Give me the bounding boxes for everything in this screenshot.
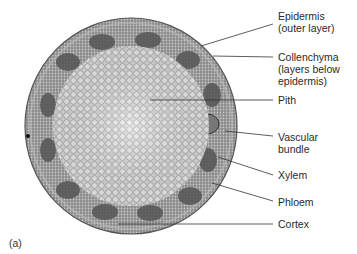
label-collenchyma-line2: (layers below [278, 63, 340, 75]
label-cortex-line1: Cortex [278, 218, 309, 230]
micrograph-illustration [0, 0, 357, 254]
label-vascular-bundle: Vascular bundle [278, 131, 318, 155]
label-xylem: Xylem [278, 169, 307, 181]
label-cortex: Cortex [278, 218, 309, 230]
label-pith-line1: Pith [278, 94, 296, 106]
label-epidermis: Epidermis (outer layer) [278, 10, 335, 34]
label-vascular-line1: Vascular [278, 131, 318, 143]
label-epidermis-line2: (outer layer) [278, 22, 335, 34]
label-pith: Pith [278, 94, 296, 106]
label-phloem-line1: Phloem [278, 196, 314, 208]
label-collenchyma: Collenchyma (layers below epidermis) [278, 51, 340, 87]
stem-cross-section-figure: Epidermis (outer layer) Collenchyma (lay… [0, 0, 357, 254]
label-epidermis-line1: Epidermis [278, 10, 335, 22]
label-collenchyma-line1: Collenchyma [278, 51, 340, 63]
label-xylem-line1: Xylem [278, 169, 307, 181]
label-collenchyma-line3: epidermis) [278, 75, 340, 87]
label-vascular-line2: bundle [278, 143, 318, 155]
panel-label: (a) [9, 237, 22, 249]
label-phloem: Phloem [278, 196, 314, 208]
